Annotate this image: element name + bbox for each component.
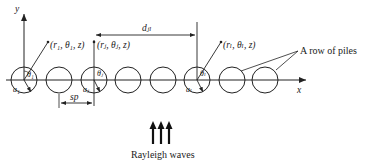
- diagram-svg: y x θ₁ a₁ (r₁, θ₁, z) θⱼ aⱼ (rⱼ, θⱼ, z): [0, 0, 370, 164]
- distance-label: dⱼₗ: [142, 23, 152, 33]
- x-axis-label: x: [296, 85, 302, 95]
- a-1-label: a₁: [13, 85, 20, 94]
- rayleigh-waves-label: Rayleigh waves: [131, 149, 195, 160]
- spacing-dimension: sp: [59, 92, 92, 108]
- y-axis-label: y: [14, 4, 20, 14]
- theta-l-label: θₗ: [200, 69, 206, 78]
- distance-dimension: dⱼₗ: [96, 23, 195, 35]
- theta-j-label: θⱼ: [97, 69, 104, 78]
- y-axis: y: [14, 4, 24, 80]
- point-j-label: (rⱼ, θⱼ, z): [97, 40, 130, 51]
- piles-annotation: A row of piles: [241, 45, 357, 71]
- point-1-label: (r₁, θ₁, z): [50, 40, 85, 51]
- spacing-label: sp: [70, 92, 79, 102]
- rayleigh-waves-arrows: Rayleigh waves: [131, 121, 195, 160]
- pile-j-geometry: θⱼ aⱼ (rⱼ, θⱼ, z): [83, 40, 130, 106]
- theta-1-label: θ₁: [27, 70, 34, 79]
- point-l-label: (rₗ, θₗ, z): [223, 40, 256, 51]
- annotation-label: A row of piles: [300, 45, 357, 56]
- pile-row-diagram: y x θ₁ a₁ (r₁, θ₁, z) θⱼ aⱼ (rⱼ, θⱼ, z): [0, 0, 370, 164]
- a-l-label: aₗ: [186, 85, 192, 94]
- a-j-label: aⱼ: [83, 85, 90, 94]
